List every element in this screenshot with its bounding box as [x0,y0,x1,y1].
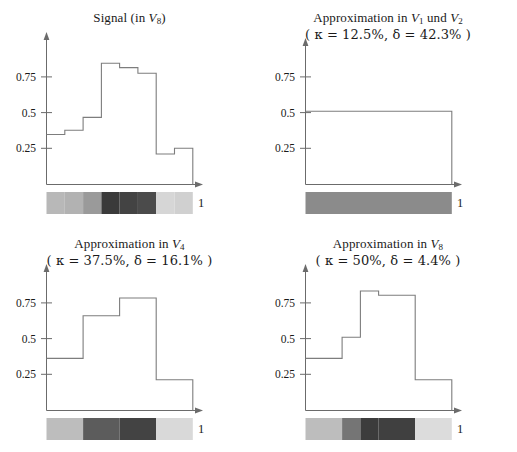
x-end-label: 1 [198,196,204,210]
panel-approx-v1-v2: Approximation in V1 und V2 ( κ = 12.5%, … [259,0,517,226]
colorbar-cell [47,418,84,440]
approx-v1-v2-step-curve [306,111,452,184]
ytick-label-05: 0.5 [22,333,37,345]
figure-wavelet-approximations: Signal (in V8) 0.75 0.5 0.25 [0,0,517,452]
approx-v4-step-curve [47,298,193,411]
y-axis-arrow-icon [303,38,309,46]
colorbar-cell [379,418,416,440]
ytick-label-025: 0.25 [275,142,295,154]
panel-approx-v8: Approximation in V8 ( κ = 50%, δ = 4.4% … [259,226,517,452]
ytick-label-075: 0.75 [275,71,295,83]
colorbar-cell [342,418,360,440]
panel-approx-v4: Approximation in V4 ( κ = 37.5%, δ = 16.… [0,226,259,452]
approx-v8-colorbar [306,418,452,440]
ytick-label-025: 0.25 [16,142,36,154]
colorbar-cell [156,192,174,214]
colorbar-cell [306,192,452,214]
colorbar-cell [83,418,120,440]
y-axis-arrow-icon [303,264,309,272]
approx-v8-step-curve [306,291,452,411]
ytick-label-05: 0.5 [22,107,37,119]
signal-step-curve [47,63,193,184]
colorbar-cell [175,192,193,214]
signal-colorbar [47,192,193,214]
y-axis-arrow-icon [44,32,50,40]
colorbar-cell [415,418,452,440]
x-axis-arrow-icon [454,182,462,188]
x-end-label: 1 [457,422,463,436]
ytick-label-05: 0.5 [281,333,296,345]
ytick-label-025: 0.25 [275,368,295,380]
panel-approx-v8-plot: 0.75 0.5 0.25 1 [259,226,517,452]
panel-approx-v1-v2-plot: 0.75 0.5 0.25 1 [259,0,517,226]
y-axis-arrow-icon [44,264,50,272]
ytick-label-05: 0.5 [281,107,296,119]
colorbar-cell [360,418,378,440]
colorbar-cell [120,192,138,214]
x-axis-arrow-icon [195,408,203,414]
colorbar-cell [47,192,65,214]
approx-v1-v2-colorbar [306,192,452,214]
colorbar-cell [65,192,83,214]
panel-approx-v4-plot: 0.75 0.5 0.25 1 [0,226,259,452]
x-axis-arrow-icon [454,408,462,414]
panel-signal-plot: 0.75 0.5 0.25 1 [0,0,259,226]
ytick-label-075: 0.75 [275,297,295,309]
panel-signal: Signal (in V8) 0.75 0.5 0.25 [0,0,259,226]
ytick-label-025: 0.25 [16,368,36,380]
colorbar-cell [83,192,101,214]
colorbar-cell [120,418,157,440]
ytick-label-075: 0.75 [16,71,36,83]
colorbar-cell [156,418,193,440]
approx-v4-colorbar [47,418,193,440]
x-end-label: 1 [198,422,204,436]
colorbar-cell [101,192,119,214]
x-end-label: 1 [457,196,463,210]
x-axis-arrow-icon [195,182,203,188]
colorbar-cell [138,192,156,214]
ytick-label-075: 0.75 [16,297,36,309]
colorbar-cell [306,418,343,440]
